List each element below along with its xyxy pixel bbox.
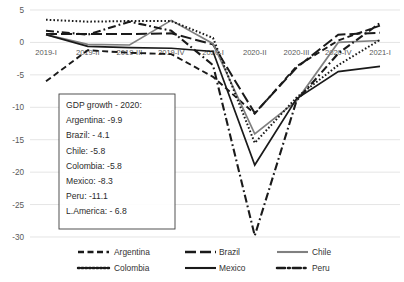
y-axis-tick-labels: 50-5-10-15-20-25-30 xyxy=(12,6,24,242)
y-tick-label: -15 xyxy=(12,136,24,145)
y-tick-label: -20 xyxy=(12,168,24,177)
chart-legend: ArgentinaBrazilChileColombiaMexicoPeru xyxy=(78,247,331,273)
gdp-growth-annotation: GDP growth - 2020:Argentina: -9.9Brazil:… xyxy=(59,94,175,229)
legend-label-peru: Peru xyxy=(312,263,330,273)
annotation-line: Chile: -5.8 xyxy=(66,146,105,156)
legend-item-chile[interactable]: Chile xyxy=(277,247,331,257)
y-tick-label: -25 xyxy=(12,201,24,210)
legend-item-brazil[interactable]: Brazil xyxy=(185,247,240,257)
annotation-line: Brazil: - 4.1 xyxy=(66,130,110,140)
annotation-line: Mexico: -8.3 xyxy=(66,176,113,186)
footer-ghost-text xyxy=(4,276,6,282)
legend-label-brazil: Brazil xyxy=(219,247,240,257)
annotation-line: GDP growth - 2020: xyxy=(66,100,142,110)
legend-item-peru[interactable]: Peru xyxy=(277,263,330,273)
legend-label-colombia: Colombia xyxy=(114,263,150,273)
legend-label-chile: Chile xyxy=(312,247,331,257)
legend-item-argentina[interactable]: Argentina xyxy=(78,247,150,257)
y-tick-label: -30 xyxy=(12,233,24,242)
annotation-line: Peru: -11.1 xyxy=(66,191,108,201)
x-tick-label: 2019-I xyxy=(35,48,57,57)
y-tick-label: -10 xyxy=(12,103,24,112)
y-tick-label: 0 xyxy=(19,38,24,47)
y-tick-label: 5 xyxy=(19,6,24,15)
annotation-line: Colombia: -5.8 xyxy=(66,161,122,171)
legend-item-mexico[interactable]: Mexico xyxy=(185,263,246,273)
gdp-growth-line-chart: 50-5-10-15-20-25-30 2019-I2019-II2019-II… xyxy=(0,0,404,282)
annotation-line: L.America: - 6.8 xyxy=(66,206,127,216)
legend-label-mexico: Mexico xyxy=(219,263,246,273)
x-tick-label: 2019-III xyxy=(117,48,143,57)
x-tick-label: 2021-I xyxy=(369,48,391,57)
legend-item-colombia[interactable]: Colombia xyxy=(78,263,150,273)
annotation-line: Argentina: -9.9 xyxy=(66,115,123,125)
y-tick-label: -5 xyxy=(17,71,25,80)
legend-label-argentina: Argentina xyxy=(114,247,150,257)
chart-canvas: 50-5-10-15-20-25-30 2019-I2019-II2019-II… xyxy=(0,0,404,282)
x-tick-label: 2020-II xyxy=(243,48,267,57)
x-tick-label: 2020-III xyxy=(284,48,310,57)
